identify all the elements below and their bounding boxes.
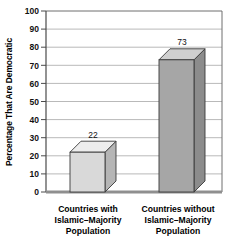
x-axis-category-labels: Countries with Islamic–Majority Populati… [55, 204, 215, 236]
category-label-1-line-3: Population [66, 226, 110, 236]
bar-value-label-1: 22 [88, 130, 98, 140]
category-label-2-line-2: Islamic–Majority [145, 215, 212, 225]
category-label-2-line-3: Population [156, 226, 200, 236]
y-tick-10: 10 [30, 169, 40, 179]
y-tick-30: 30 [30, 133, 40, 143]
y-tick-50: 50 [30, 97, 40, 107]
y-axis-ticks [41, 11, 46, 192]
y-tick-0: 0 [34, 187, 39, 197]
y-tick-20: 20 [30, 151, 40, 161]
y-axis-label: Percentage That Are Democratic [4, 38, 14, 166]
bar-chart: 100 90 80 70 60 50 40 30 20 10 0 Percent… [0, 0, 232, 241]
bar-front-face-1 [70, 152, 105, 192]
bar-side-face-2 [194, 49, 205, 192]
category-label-2-line-1: Countries without [141, 204, 214, 214]
category-label-1-line-2: Islamic–Majority [55, 215, 122, 225]
y-tick-100: 100 [25, 6, 39, 16]
y-tick-70: 70 [30, 61, 40, 71]
bar-value-label-2: 73 [177, 37, 187, 47]
bar-group-countries-without-islamic-majority[interactable]: 73 [159, 37, 205, 192]
bar-front-face-2 [159, 60, 194, 192]
y-tick-90: 90 [30, 24, 40, 34]
category-label-1-line-1: Countries with [58, 204, 118, 214]
chart-canvas: 100 90 80 70 60 50 40 30 20 10 0 Percent… [0, 0, 232, 241]
y-tick-80: 80 [30, 42, 40, 52]
y-tick-40: 40 [30, 115, 40, 125]
y-tick-labels: 100 90 80 70 60 50 40 30 20 10 0 [25, 6, 39, 197]
y-tick-60: 60 [30, 79, 40, 89]
